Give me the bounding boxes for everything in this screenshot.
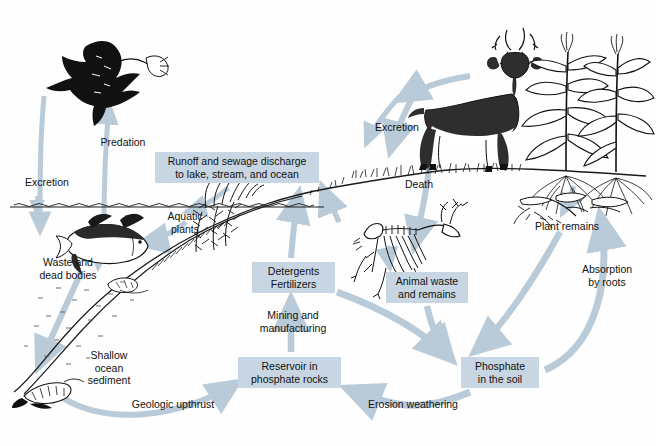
box-runoff-sewage: Runoff and sewage discharge to lake, str…: [155, 152, 319, 183]
label-erosion-weathering: Erosion weathering: [358, 398, 468, 411]
box-animal-waste-remains: Animal waste and remains: [386, 272, 468, 303]
deer-illustration: [408, 28, 543, 172]
arrow-plantremains-soil: [474, 232, 560, 352]
label-shallow-ocean-sediment: Shallow ocean sediment: [78, 349, 140, 387]
label-excretion-left: Excretion: [14, 176, 80, 189]
label-geologic-upthrust: Geologic upthrust: [121, 398, 225, 411]
box-phosphate-in-soil: Phosphate in the soil: [461, 357, 539, 388]
label-mining-and-manufacturing: Mining and manufacturing: [246, 309, 340, 334]
label-waste-and-dead-bodies: Waste and dead bodies: [30, 256, 106, 281]
water-surface-line: [10, 204, 324, 208]
arrow-slope-runoff: [322, 186, 339, 222]
arrow-waste-sediment: [38, 272, 81, 368]
label-predation: Predation: [88, 136, 158, 149]
label-aquatic-plants: Aquatic plants: [157, 210, 213, 235]
box-reservoir-phosphate-rocks: Reservoir in phosphate rocks: [238, 357, 341, 388]
label-absorption-by-roots: Absorption by roots: [571, 263, 643, 288]
arrow-deer-excretion: [390, 80, 422, 152]
arrow-predation: [104, 104, 109, 220]
box-detergents-fertilizers: Detergents Fertilizers: [252, 262, 335, 293]
label-death: Death: [394, 178, 444, 191]
phosphorus-cycle-diagram: Runoff and sewage discharge to lake, str…: [0, 0, 656, 446]
label-plant-remains: Plant remains: [524, 220, 610, 233]
arrow-corn-deer: [398, 76, 470, 100]
arrow-detergents-runoff: [291, 192, 299, 258]
label-excretion-right: Excretion: [364, 121, 430, 134]
arrow-excretion-bird: [40, 96, 44, 232]
corn-plants-illustration: [522, 32, 654, 216]
arrow-runoff-water: [186, 188, 228, 212]
